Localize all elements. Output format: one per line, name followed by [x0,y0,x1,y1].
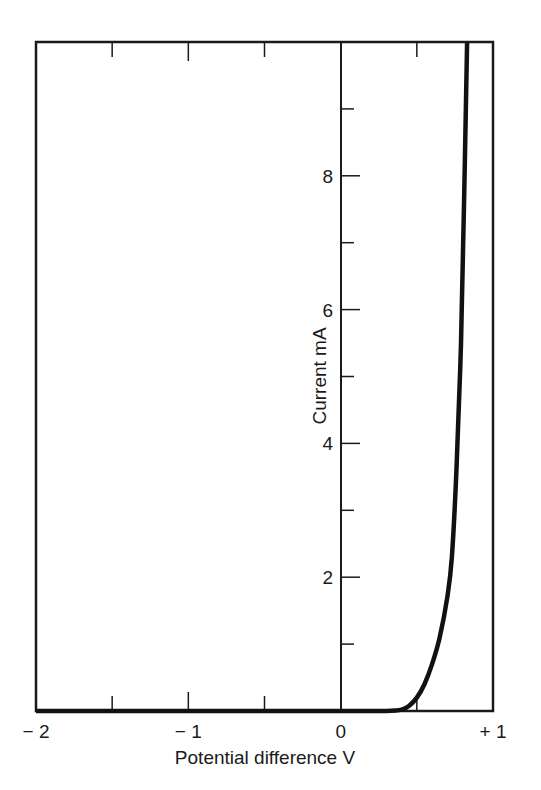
y-tick-label: 4 [322,433,333,454]
x-axis-title: Potential difference V [175,747,356,768]
iv-curve-chart: − 2− 10+ 1 2468 Potential difference V C… [0,0,541,790]
x-tick-label: − 1 [175,721,202,742]
plot-frame [36,42,493,711]
x-tick-label: + 1 [480,721,507,742]
y-axis-ticks [341,109,360,644]
x-tick-label: − 2 [23,721,50,742]
x-tick-label: 0 [335,721,346,742]
x-axis-tick-labels: − 2− 10+ 1 [23,721,507,742]
y-tick-label: 2 [322,567,333,588]
iv-curve-line [36,42,467,711]
x-axis-ticks-bottom [112,692,417,711]
y-tick-label: 8 [322,166,333,187]
x-axis-ticks-top [112,42,417,61]
y-axis-title: Current mA [309,327,330,424]
y-tick-label: 6 [322,300,333,321]
